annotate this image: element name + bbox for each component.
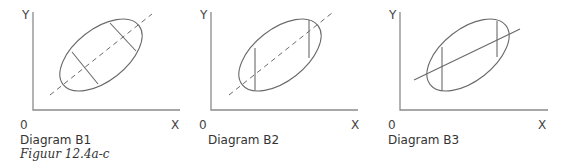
- b1-chord-left: [72, 52, 98, 84]
- b3-title: Diagram B3: [388, 134, 459, 147]
- b2-axes: [211, 12, 358, 110]
- b1-y-label: Y: [22, 9, 29, 21]
- b1-axes: [33, 12, 180, 110]
- b2-y-label: Y: [200, 9, 207, 21]
- diagram-b1: [33, 5, 180, 110]
- b3-origin-label: 0: [388, 119, 396, 131]
- diagram-b2: [211, 5, 358, 110]
- b1-origin-label: 0: [20, 119, 28, 131]
- figure-caption: Figuur 12.4a-c: [20, 148, 110, 161]
- b1-chord-right: [110, 23, 136, 51]
- b3-x-label: X: [538, 119, 546, 131]
- diagram-b3: [400, 5, 548, 110]
- b2-dashed-line: [229, 13, 332, 95]
- b3-y-label: Y: [389, 9, 396, 21]
- b1-x-label: X: [171, 119, 179, 131]
- b2-title: Diagram B2: [208, 134, 279, 147]
- b2-x-label: X: [351, 119, 359, 131]
- b2-origin-label: 0: [199, 119, 207, 131]
- b1-title: Diagram B1: [20, 134, 91, 147]
- b3-solid-line: [414, 29, 520, 80]
- b3-axes: [400, 12, 548, 110]
- b1-dashed-line: [50, 14, 152, 95]
- b3-ellipse: [414, 5, 522, 105]
